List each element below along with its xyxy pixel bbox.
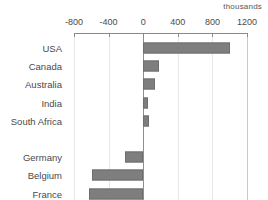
gridline xyxy=(74,34,75,200)
bar xyxy=(143,43,230,54)
gridline xyxy=(178,34,179,200)
bar xyxy=(143,115,149,126)
x-tick-label: 800 xyxy=(205,17,220,27)
bar xyxy=(143,97,148,108)
category-label: Australia xyxy=(25,79,62,90)
bar-chart: thousands -800-40004008001200 USACanadaA… xyxy=(0,0,268,200)
category-label: Belgium xyxy=(28,170,62,181)
x-tick-label: -800 xyxy=(65,17,83,27)
category-label: Canada xyxy=(29,61,62,72)
x-tick-mark xyxy=(109,33,110,37)
category-label: France xyxy=(32,188,62,199)
gridline xyxy=(212,34,213,200)
x-axis-tick-labels: -800-40004008001200 xyxy=(0,17,268,29)
x-tick-label: 0 xyxy=(141,17,146,27)
bar xyxy=(92,170,143,181)
category-label: India xyxy=(41,97,62,108)
bar xyxy=(143,61,159,72)
x-tick-mark xyxy=(247,33,248,37)
x-tick-mark xyxy=(178,33,179,37)
plot-right-border xyxy=(247,34,248,200)
x-tick-mark xyxy=(74,33,75,37)
x-tick-label: 400 xyxy=(170,17,185,27)
bar xyxy=(125,152,144,163)
units-label: thousands xyxy=(223,2,262,11)
x-tick-label: 1200 xyxy=(237,17,257,27)
x-tick-mark xyxy=(143,33,144,37)
x-tick-mark xyxy=(212,33,213,37)
category-label: Germany xyxy=(23,152,62,163)
x-tick-label: -400 xyxy=(100,17,118,27)
category-label: South Africa xyxy=(11,115,62,126)
category-label: USA xyxy=(42,43,62,54)
bar xyxy=(89,188,143,199)
bar xyxy=(143,79,155,90)
